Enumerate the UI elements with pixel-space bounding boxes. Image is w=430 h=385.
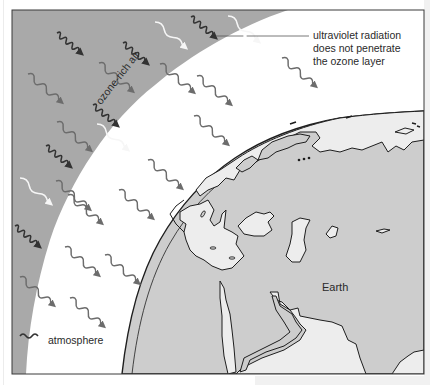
uv-label-line-3: the ozone layer [313, 55, 401, 68]
atmosphere-label: atmosphere [48, 334, 103, 347]
uv-label-line-1: ultraviolet radiation [313, 29, 401, 42]
uv-label-line-2: does not penetrate [313, 42, 401, 55]
uv-label: ultraviolet radiation does not penetrate… [313, 29, 401, 68]
earth-label: Earth [322, 281, 348, 294]
